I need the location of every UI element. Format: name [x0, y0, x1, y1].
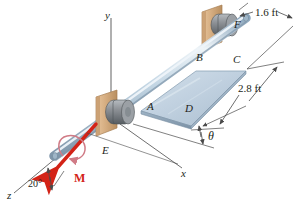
- angle-20-label: 20°: [28, 179, 42, 189]
- dim-2-8-arrow-lower: [220, 95, 239, 124]
- angle-theta-label: θ: [208, 130, 214, 142]
- bearing-lower-wood-edge: [96, 96, 100, 136]
- theta-arrow-down: [201, 132, 203, 144]
- angle-20-leader: [54, 171, 64, 186]
- point-f-label: F: [234, 19, 241, 30]
- y-axis-label: y: [105, 10, 110, 21]
- dim-1-6-extension-right: [247, 26, 293, 69]
- theta-arrow-up: [199, 126, 201, 137]
- z-axis-label: z: [7, 190, 11, 201]
- dimension-2-8ft-label: 2.8 ft: [238, 83, 261, 94]
- angle-20-construction: [48, 168, 64, 190]
- dim-1-6-arrow-right: [278, 12, 292, 18]
- bearing-lower-collar-bore: [125, 107, 131, 117]
- x-axis-line: [120, 124, 182, 168]
- x-axis-label: x: [181, 168, 186, 179]
- point-a-label: A: [147, 101, 154, 112]
- moment-vector-label: M: [74, 172, 85, 184]
- dimension-1-6ft-label: 1.6 ft: [255, 7, 278, 18]
- shaft-end-e: [52, 153, 57, 160]
- mechanics-figure: y x z A B C D E F 1.6 ft 2.8 ft θ 20° M: [0, 0, 297, 214]
- leader-e-to-x-axis: [87, 133, 178, 164]
- angle-20-arrow-up: [48, 168, 50, 181]
- dim-2-8-extension-top: [247, 62, 284, 69]
- dim-1-6-extension-left: [239, 3, 248, 10]
- point-d-label: D: [185, 103, 193, 114]
- point-e-label: E: [102, 145, 109, 156]
- point-c-label: C: [233, 54, 240, 65]
- point-b-label: B: [196, 52, 203, 63]
- shaft-end-f: [243, 15, 248, 22]
- leader-lines: [87, 133, 178, 164]
- angle-20-arrow-down: [50, 177, 52, 190]
